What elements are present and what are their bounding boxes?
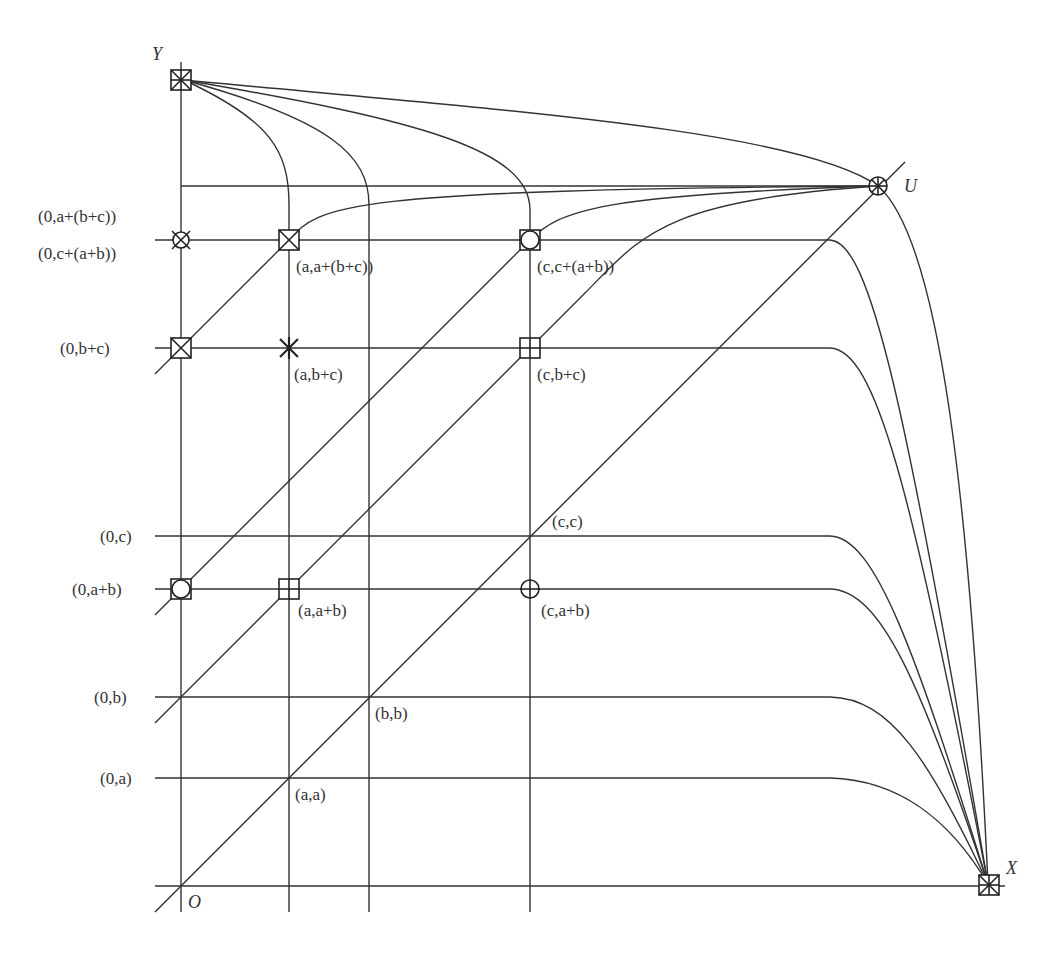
y-axis-labels: (0,a+(b+c)) (0,c+(a+b)) (0,b+c) (0,c) (0… bbox=[38, 207, 132, 788]
x-point-marker-icon bbox=[979, 875, 999, 895]
label-0-ab: (0,a+b) bbox=[72, 580, 122, 599]
origin-label: O bbox=[188, 892, 201, 912]
point-labels: (a,a+(b+c)) (c,c+(a+b)) (a,b+c) (c,b+c) … bbox=[294, 257, 614, 804]
label-0-b: (0,b) bbox=[94, 688, 127, 707]
horizontal-line-b bbox=[155, 697, 988, 884]
label-0-c-ab: (0,c+(a+b)) bbox=[38, 244, 116, 263]
label-a-ab: (a,a+b) bbox=[298, 601, 347, 620]
x-axis-label: X bbox=[1005, 858, 1018, 878]
label-0-a-bc: (0,a+(b+c)) bbox=[38, 207, 116, 226]
y-point-marker-icon bbox=[171, 70, 191, 90]
vertical-line-b bbox=[184, 80, 369, 912]
vertical-grid-lines bbox=[181, 62, 530, 912]
diagonal-bc bbox=[155, 186, 878, 374]
boxed-plus-marker-icon bbox=[520, 338, 540, 358]
label-a-bc: (a,b+c) bbox=[294, 365, 343, 384]
label-c-ab: (c,a+b) bbox=[541, 601, 590, 620]
vertical-line-c bbox=[184, 80, 530, 912]
label-0-bc: (0,b+c) bbox=[60, 339, 110, 358]
boxed-circle-marker-icon bbox=[520, 230, 540, 250]
label-0-a: (0,a) bbox=[100, 769, 132, 788]
label-c-c-ab: (c,c+(a+b)) bbox=[537, 257, 614, 276]
horizontal-line-a bbox=[155, 778, 988, 884]
diagonal-b bbox=[155, 186, 878, 723]
label-a-a-bc: (a,a+(b+c)) bbox=[296, 257, 373, 276]
boxed-plus-marker-icon bbox=[279, 579, 299, 599]
u-label: U bbox=[904, 176, 918, 196]
boxed-circle-marker-icon bbox=[171, 579, 191, 599]
horizontal-line-ab bbox=[155, 589, 988, 884]
y-axis-label: Y bbox=[152, 44, 164, 64]
circled-plus-marker-icon bbox=[520, 579, 540, 599]
top-curve-y-to-x bbox=[184, 80, 988, 884]
label-c-c: (c,c) bbox=[552, 512, 583, 531]
boxed-cross-marker-icon bbox=[279, 230, 299, 250]
circled-cross-marker-icon bbox=[172, 231, 190, 249]
label-b-b: (b,b) bbox=[375, 704, 408, 723]
projective-addition-diagram: Y X U O (0,a+(b+c)) (0,c+(a+b)) (0,b+c) … bbox=[0, 0, 1061, 953]
label-c-bc: (c,b+c) bbox=[537, 365, 586, 384]
label-a-a: (a,a) bbox=[295, 785, 326, 804]
horizontal-grid-lines bbox=[155, 80, 1005, 886]
u-point-marker-icon bbox=[869, 177, 887, 195]
label-0-c: (0,c) bbox=[100, 527, 132, 546]
boxed-cross-marker-icon bbox=[171, 338, 191, 358]
